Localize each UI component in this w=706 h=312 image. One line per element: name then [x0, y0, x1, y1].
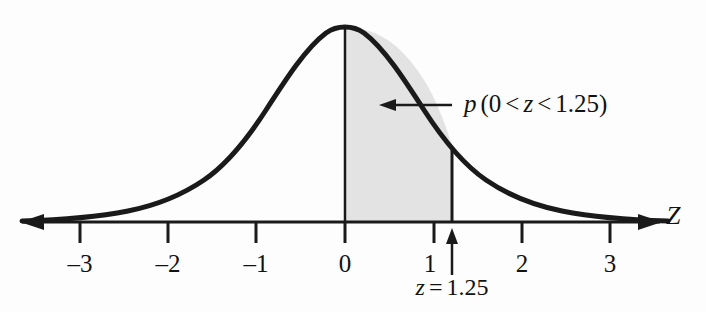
probability-expression-label: p(0<z<1.25)	[464, 90, 607, 118]
tick-label-three: 3	[604, 250, 617, 278]
boundary-pointer-arrow	[446, 228, 458, 275]
axis-right-arrowhead	[638, 214, 662, 230]
probability-second-operator: <	[537, 90, 551, 117]
tick-label-zero: 0	[339, 250, 352, 278]
probability-p-symbol: p	[464, 90, 477, 117]
probability-close-paren: )	[599, 90, 607, 117]
boundary-value-label: z=1.25	[416, 274, 489, 301]
axis-left-arrowhead	[20, 214, 44, 230]
boundary-value: 1.25	[446, 274, 488, 300]
tick-label-two: 2	[516, 250, 529, 278]
normal-distribution-figure: –3 –2 –1 0 1 2 3 Z z=1.25 p(0<z<1.25)	[0, 0, 706, 312]
tick-label-minus-2: –2	[156, 250, 181, 278]
axis-tick-marks	[80, 222, 610, 243]
z-axis-label: Z	[666, 201, 680, 231]
probability-variable: z	[523, 90, 533, 117]
probability-upper-bound: 1.25	[555, 90, 599, 117]
probability-first-operator: <	[505, 90, 519, 117]
probability-open-paren: (	[481, 90, 489, 117]
tick-label-minus-3: –3	[68, 250, 93, 278]
boundary-equals: =	[429, 274, 443, 300]
distribution-plot	[0, 0, 706, 312]
boundary-variable: z	[416, 274, 425, 300]
tick-label-minus-1: –1	[244, 250, 269, 278]
probability-lower-bound: 0	[489, 90, 502, 117]
